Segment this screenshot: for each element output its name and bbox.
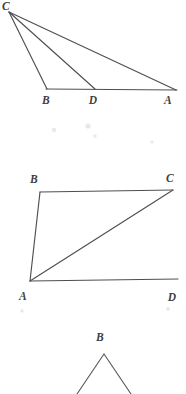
vertex-label-C-figure-1: C — [2, 0, 10, 12]
vertex-label-B-figure-3: B — [95, 331, 104, 343]
figure-sheet: C B D A B C A D B — [0, 0, 186, 394]
vertex-label-A-figure-2: A — [18, 290, 27, 302]
figures-canvas: C B D A B C A D B — [0, 0, 186, 394]
vertex-label-B-figure-1: B — [41, 94, 50, 106]
page-background — [0, 0, 186, 394]
vertex-label-D-figure-2: D — [167, 291, 177, 303]
vertex-label-C-figure-2: C — [166, 172, 174, 184]
vertex-label-D-figure-1: D — [88, 94, 98, 106]
vertex-label-A-figure-1: A — [163, 94, 172, 106]
vertex-label-B-figure-2: B — [29, 173, 38, 185]
